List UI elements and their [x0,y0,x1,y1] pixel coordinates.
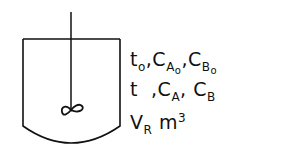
current-conditions-label: t ,CA, CB [130,80,216,107]
initial-conditions-label: to,CAo,CBo [130,50,217,80]
impeller-icon [62,105,83,115]
reactor-volume-label: VR m3 [130,109,186,140]
